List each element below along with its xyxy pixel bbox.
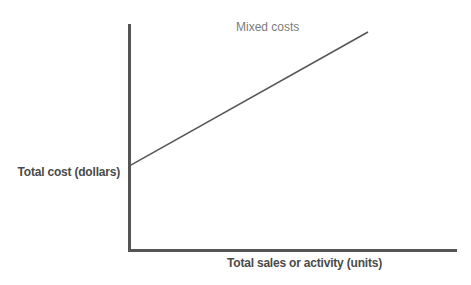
x-axis-label-wrap: Total sales or activity (units) [0, 256, 471, 270]
chart-plot-area [0, 0, 471, 285]
chart-figure: Total cost (dollars) Total sales or acti… [0, 0, 471, 285]
mixed-costs-line [129, 32, 368, 166]
y-axis-label: Total cost (dollars) [18, 165, 120, 179]
mixed-costs-annotation: Mixed costs [236, 20, 299, 34]
x-axis-label: Total sales or activity (units) [227, 256, 382, 270]
